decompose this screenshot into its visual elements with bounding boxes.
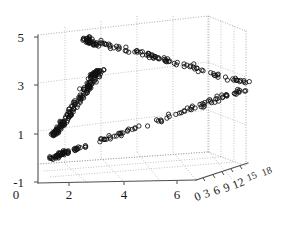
plot-canvas xyxy=(0,0,283,230)
data-point-cloud xyxy=(48,35,252,162)
y-axis-ticks xyxy=(34,37,38,182)
grid-floor xyxy=(38,152,234,183)
x-tick-label-0: 0 xyxy=(8,188,24,201)
y-tick-label-3: 3 xyxy=(8,79,24,92)
scatter3d-figure: 5 3 1 -1 0 2 4 6 0 3 6 9 12 15 18 xyxy=(0,0,283,230)
x-tick-label-2: 2 xyxy=(61,188,77,201)
grid-right-wall xyxy=(208,21,246,162)
y-tick-label-1: 1 xyxy=(8,128,24,141)
grid-back-wall xyxy=(38,16,209,164)
x-tick-label-4: 4 xyxy=(116,188,132,201)
x-tick-label-6: 6 xyxy=(169,188,185,201)
y-tick-label-5: 5 xyxy=(8,31,24,44)
